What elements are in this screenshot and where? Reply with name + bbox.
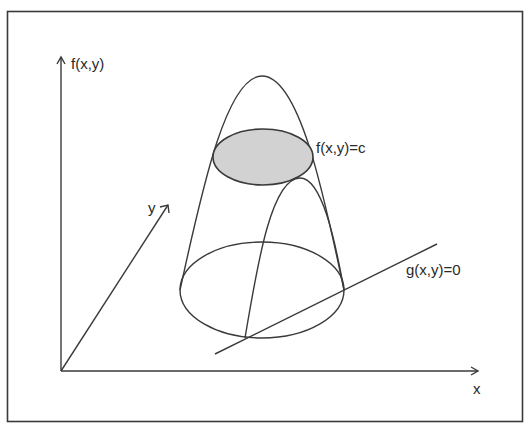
y-axis-label: y [148,200,156,215]
base-ellipse [180,242,344,338]
constraint-label: g(x,y)=0 [406,262,461,277]
f-axis [57,57,65,371]
x-axis-label: x [473,381,481,396]
level-set-ellipse [213,129,313,185]
y-axis-arrowhead-icon [160,205,169,213]
x-axis [61,367,478,375]
figure-frame [8,12,523,422]
level-set-label: f(x,y)=c [316,140,366,155]
y-axis [61,205,169,371]
f-axis-label: f(x,y) [71,56,104,71]
